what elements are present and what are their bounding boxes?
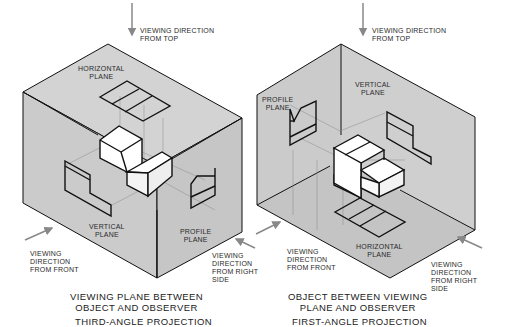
first-front-direction-label: VIEWING DIRECTION FROM FRONT [287, 248, 336, 272]
first-angle-title: FIRST-ANGLE PROJECTION [292, 316, 427, 327]
third-angle-box [23, 3, 255, 278]
first-horizontal-plane-label: HORIZONTAL PLANE [356, 243, 403, 259]
third-profile-plane-label: PROFILE PLANE [180, 228, 211, 244]
third-front-direction-label: VIEWING DIRECTION FROM FRONT [30, 250, 79, 274]
first-caption: OBJECT BETWEEN VIEWING PLANE AND OBSERVE… [288, 291, 428, 313]
first-right-direction-label: VIEWING DIRECTION FROM RIGHT SIDE [431, 261, 477, 293]
first-vertical-plane-label: VERTICAL PLANE [355, 81, 391, 97]
third-caption: VIEWING PLANE BETWEEN OBJECT AND OBSERVE… [70, 291, 203, 313]
first-top-direction-label: VIEWING DIRECTION FROM TOP [372, 27, 446, 43]
third-top-direction-label: VIEWING DIRECTION FROM TOP [140, 27, 214, 43]
third-vertical-plane-label: VERTICAL PLANE [89, 223, 125, 239]
first-angle-box [256, 3, 482, 278]
third-right-direction-label: VIEWING DIRECTION FROM RIGHT SIDE [212, 252, 258, 284]
third-horizontal-plane-label: HORIZONTAL PLANE [78, 65, 125, 81]
third-angle-title: THIRD-ANGLE PROJECTION [75, 316, 212, 327]
first-profile-plane-label: PROFILE PLANE [262, 96, 293, 112]
